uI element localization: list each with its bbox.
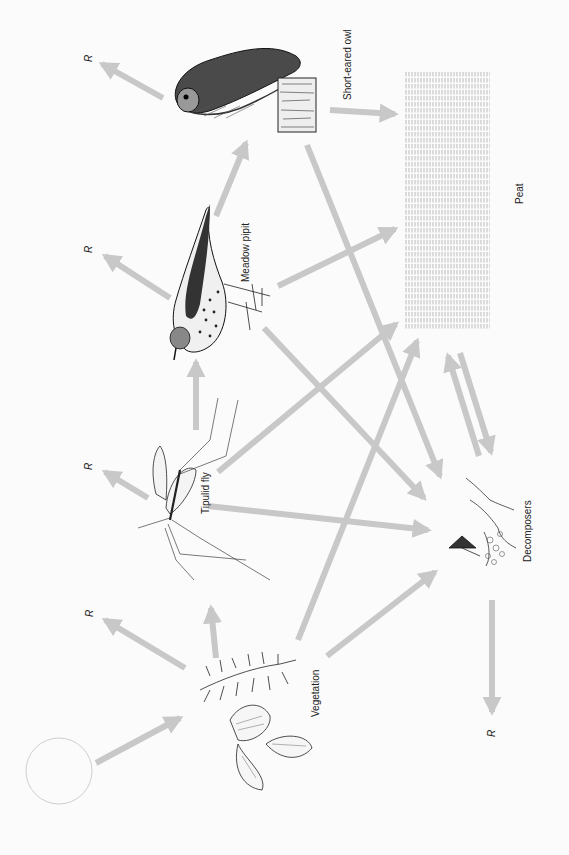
arrow-vegetation-to-r <box>105 620 185 668</box>
vegetation-label: Vegetation <box>310 670 321 717</box>
sun-circle <box>26 738 92 804</box>
r-label-tipulid: R <box>83 463 94 470</box>
arrow-pipit-to-owl <box>216 143 246 216</box>
r-label-pipit: R <box>83 246 94 253</box>
arrow-vegetation-to-decomposers <box>327 572 435 656</box>
r-label-decomposers: R <box>486 730 497 737</box>
r-label-owl: R <box>83 55 94 62</box>
arrow-vegetation-to-tipulid <box>211 608 216 658</box>
meadow-pipit-illustration <box>170 204 270 360</box>
arrow-sun-to-vegetation <box>96 718 180 763</box>
vegetation-illustration <box>200 652 312 790</box>
decomposers-label: Decomposers <box>522 500 533 562</box>
energy-flow-diagram <box>0 0 569 855</box>
peat-box <box>405 71 490 329</box>
arrow-tipulid-to-r <box>105 472 148 498</box>
peat-label: Peat <box>514 183 525 204</box>
tipulid-label: Tipulid fly <box>200 472 211 514</box>
arrow-tipulid-to-decomposers <box>208 506 428 530</box>
owl-label: Short-eared owl <box>342 29 353 100</box>
arrow-pipit-to-peat <box>278 229 395 286</box>
r-label-vegetation: R <box>84 610 95 617</box>
arrow-owl-to-r <box>102 64 163 98</box>
owl-illustration <box>175 48 316 132</box>
pipit-label: Meadow pipit <box>240 223 251 282</box>
arrow-tipulid-to-peat <box>218 324 396 472</box>
arrow-owl-to-peat <box>330 110 395 114</box>
arrow-pipit-to-r <box>105 256 170 298</box>
decomposers-illustration <box>449 478 516 566</box>
